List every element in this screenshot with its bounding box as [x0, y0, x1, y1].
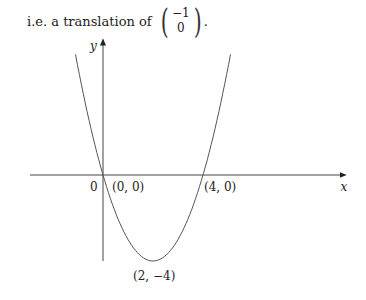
point-label-vertex: (2, −4) [133, 269, 175, 283]
parabola-curve [76, 54, 231, 261]
origin-label: 0 [90, 180, 98, 194]
y-axis-label: y [89, 39, 97, 53]
point-label-origin: (0, 0) [112, 180, 144, 194]
x-axis-label: x [341, 180, 348, 194]
parabola-graph: x y 0 (0, 0) (4, 0) (2, −4) [0, 0, 366, 300]
point-label-root: (4, 0) [204, 180, 236, 194]
